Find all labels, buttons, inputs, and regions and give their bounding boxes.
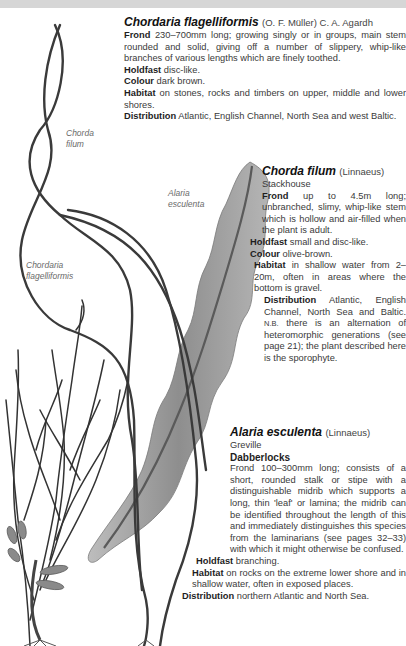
field-label: Frond xyxy=(124,30,150,40)
label-line: Chorda xyxy=(66,128,94,139)
field-label: Colour xyxy=(124,76,154,86)
label-line: Chordaria xyxy=(26,260,73,271)
common-name: Dabberlocks xyxy=(182,452,406,464)
field-label: Distribution xyxy=(264,295,316,305)
distribution-description: Distribution Atlantic, English Channel, … xyxy=(124,111,406,123)
field-label: Frond xyxy=(262,191,288,201)
nb-text: there is an alternation of heteromorphic… xyxy=(264,318,406,363)
label-line: flagelliformis xyxy=(26,271,73,282)
field-text: olive-brown. xyxy=(283,249,333,259)
habitat-description: Habitat on rocks on the extreme lower sh… xyxy=(182,568,406,591)
species-name: Chordaria flagelliformis xyxy=(124,15,259,29)
field-text: northern Atlantic and North Sea. xyxy=(237,591,369,601)
nb-label: N.B. xyxy=(264,319,279,328)
holdfast-description: Holdfast disc-like. xyxy=(124,65,406,77)
field-text: disc-like. xyxy=(164,65,200,75)
distribution-description: Distribution northern Atlantic and North… xyxy=(182,591,406,603)
entry-title: Chordaria flagelliformis (O. F. Müller) … xyxy=(124,15,406,30)
field-text: Atlantic, English Channel, North Sea and… xyxy=(178,111,396,121)
holdfast-description: Holdfast branching. xyxy=(182,556,406,568)
alaria-holdfast xyxy=(24,640,154,646)
field-label: Holdfast xyxy=(124,65,161,75)
label-chorda-filum: Chorda filum xyxy=(66,128,94,150)
species-authority-cont: Greville xyxy=(182,440,406,452)
species-entry-alaria-esculenta: Alaria esculenta (Linnaeus) Greville Dab… xyxy=(182,425,406,602)
field-label: Distribution xyxy=(124,111,176,121)
habitat-description: Habitat on stones, rocks and timbers on … xyxy=(124,88,406,111)
holdfast-description: Holdfast small and disc-like. xyxy=(250,237,406,249)
field-text: branching. xyxy=(236,556,279,566)
label-line: esculenta xyxy=(168,199,204,210)
distribution-description: Distribution Atlantic, English Channel, … xyxy=(250,295,406,365)
entry-title: Chorda filum (Linnaeus) xyxy=(250,164,406,179)
field-label: Colour xyxy=(250,249,280,259)
field-text: small and disc-like. xyxy=(290,237,369,247)
entry-title: Alaria esculenta (Linnaeus) xyxy=(182,425,406,440)
field-label: Habitat xyxy=(254,260,286,270)
species-authority-cont: Stackhouse xyxy=(250,179,406,191)
label-chordaria-flagelliformis: Chordaria flagelliformis xyxy=(26,260,73,282)
alaria-stipe xyxy=(32,560,40,640)
species-name: Alaria esculenta xyxy=(230,425,322,439)
species-entry-chorda-filum: Chorda filum (Linnaeus) Stackhouse Frond… xyxy=(250,164,406,365)
field-label: Habitat xyxy=(192,568,224,578)
habitat-description: Habitat in shallow water from 2–20m, oft… xyxy=(250,260,406,295)
field-text: 230–700mm long; growing singly or in gro… xyxy=(124,30,406,63)
frond-description: Frond 100–300mm long; consists of a shor… xyxy=(182,463,406,556)
colour-description: Colour dark brown. xyxy=(124,76,406,88)
species-entry-chordaria: Chordaria flagelliformis (O. F. Müller) … xyxy=(124,15,406,123)
species-authority: (Linnaeus) xyxy=(325,427,370,438)
species-authority: (O. F. Müller) C. A. Agardh xyxy=(262,17,373,28)
field-text: on stones, rocks and timbers on upper, m… xyxy=(124,88,406,110)
colour-description: Colour olive-brown. xyxy=(250,249,406,261)
field-label: Distribution xyxy=(182,591,234,601)
frond-description: Frond 230–700mm long; growing singly or … xyxy=(124,30,406,65)
field-text: on rocks on the extreme lower shore and … xyxy=(192,568,406,590)
label-line: filum xyxy=(66,139,94,150)
field-label: Habitat xyxy=(124,88,156,98)
field-label: Holdfast xyxy=(196,556,233,566)
label-alaria-esculenta: Alaria esculenta xyxy=(168,188,204,210)
species-name: Chorda filum xyxy=(262,164,336,178)
field-label: Holdfast xyxy=(250,237,287,247)
species-authority: (Linnaeus) xyxy=(339,166,384,177)
frond-description: Frond up to 4.5m long; unbranched, slimy… xyxy=(250,191,406,237)
label-line: Alaria xyxy=(168,188,204,199)
field-text: dark brown. xyxy=(157,76,206,86)
